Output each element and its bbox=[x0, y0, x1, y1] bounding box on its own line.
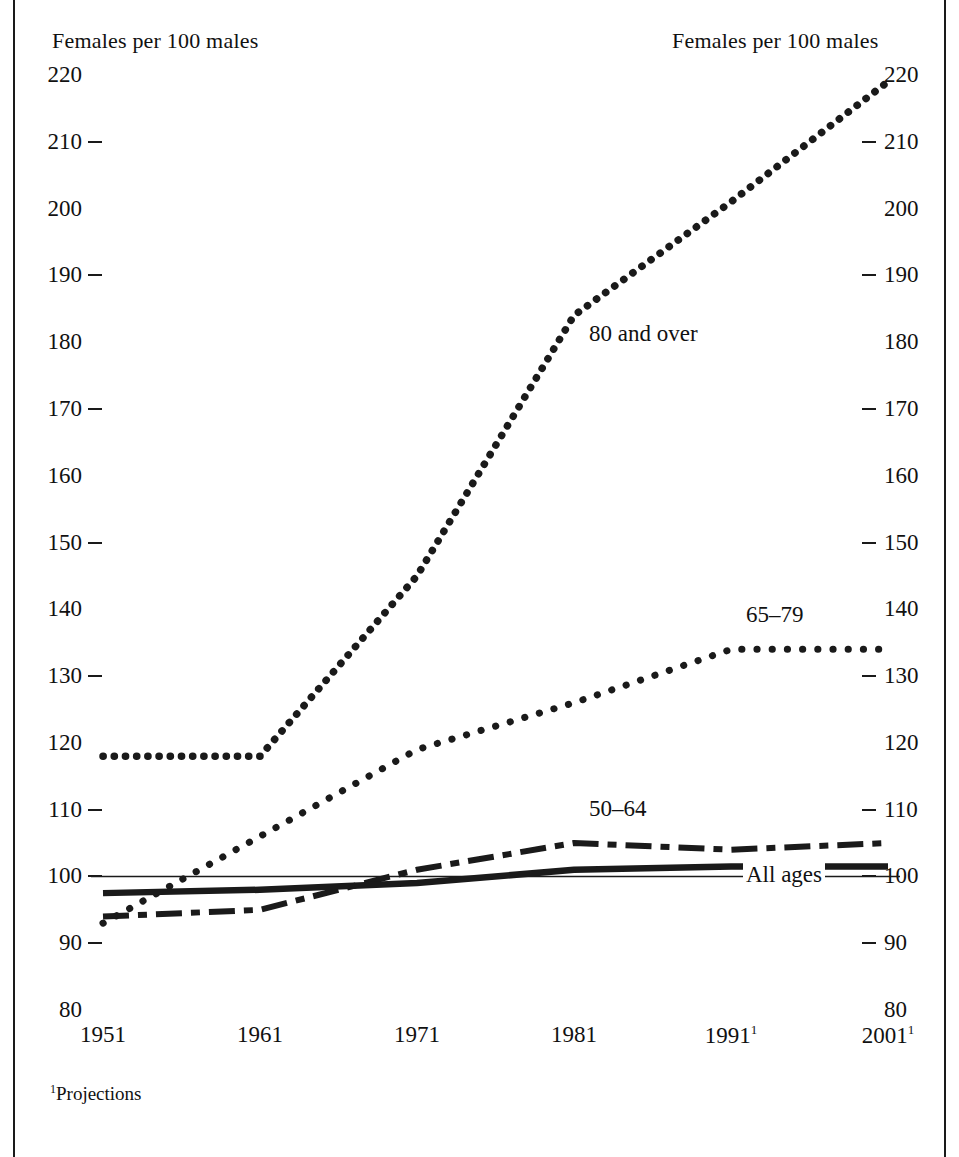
series-label-All ages: All ages bbox=[743, 862, 825, 888]
series-label-65-79: 65–79 bbox=[743, 602, 807, 628]
plot-area bbox=[0, 0, 959, 1157]
series-label-80 and over: 80 and over bbox=[586, 321, 701, 347]
footnote-text: Projections bbox=[56, 1083, 142, 1104]
chart-figure: Females per 100 males Females per 100 ma… bbox=[0, 0, 959, 1157]
footnote: 1Projections bbox=[50, 1082, 142, 1105]
series-line-80 and over bbox=[103, 82, 888, 757]
series-paths bbox=[103, 82, 888, 924]
series-label-50-64: 50–64 bbox=[586, 796, 650, 822]
